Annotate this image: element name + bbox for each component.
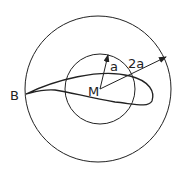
diagram-canvas: B M a 2a <box>0 0 187 175</box>
radius-a-arrow <box>100 55 108 89</box>
label-2a: 2a <box>128 56 144 71</box>
label-b: B <box>10 88 19 103</box>
label-m: M <box>88 84 99 99</box>
label-a: a <box>110 59 118 74</box>
